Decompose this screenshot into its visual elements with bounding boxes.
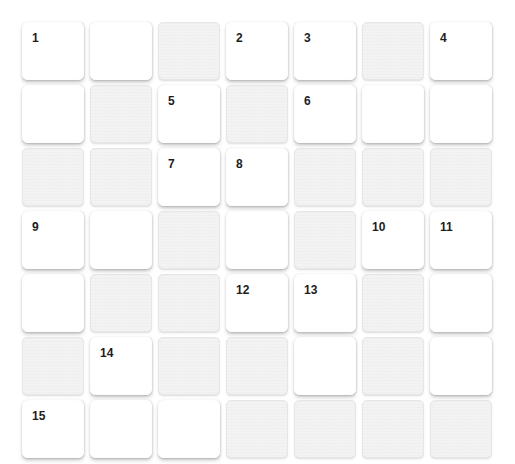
cell-letter[interactable] xyxy=(227,212,287,268)
crossword-cell-open[interactable]: 1 xyxy=(22,22,84,80)
cell-letter[interactable] xyxy=(91,401,151,457)
crossword-cell-open[interactable]: 8 xyxy=(226,148,288,206)
cell-letter[interactable] xyxy=(91,23,151,79)
crossword-cell-open[interactable] xyxy=(430,85,492,143)
cell-letter[interactable] xyxy=(91,338,151,394)
cell-letter[interactable] xyxy=(295,275,355,331)
crossword-cell-open[interactable] xyxy=(90,211,152,269)
crossword-cell-open[interactable]: 12 xyxy=(226,274,288,332)
crossword-cell-block xyxy=(90,148,152,206)
crossword-cell-open[interactable]: 7 xyxy=(158,148,220,206)
crossword-cell-open[interactable]: 15 xyxy=(22,400,84,458)
crossword-cell-block xyxy=(158,337,220,395)
cell-letter[interactable] xyxy=(23,212,83,268)
crossword-cell-open[interactable] xyxy=(226,211,288,269)
crossword-cell-block xyxy=(22,337,84,395)
crossword-cell-open[interactable] xyxy=(90,400,152,458)
crossword-grid: 123456789101112131415 xyxy=(22,22,492,458)
crossword-cell-open[interactable]: 2 xyxy=(226,22,288,80)
crossword-cell-open[interactable] xyxy=(294,337,356,395)
crossword-cell-open[interactable]: 6 xyxy=(294,85,356,143)
crossword-cell-block xyxy=(158,274,220,332)
crossword-cell-open[interactable]: 10 xyxy=(362,211,424,269)
cell-letter[interactable] xyxy=(295,338,355,394)
crossword-cell-block xyxy=(362,148,424,206)
crossword-cell-block xyxy=(362,274,424,332)
crossword-cell-open[interactable] xyxy=(430,274,492,332)
cell-letter[interactable] xyxy=(23,275,83,331)
crossword-cell-block xyxy=(430,148,492,206)
cell-letter[interactable] xyxy=(431,275,491,331)
crossword-cell-block xyxy=(226,400,288,458)
crossword-cell-block xyxy=(294,211,356,269)
crossword-cell-open[interactable] xyxy=(22,85,84,143)
crossword-cell-open[interactable]: 11 xyxy=(430,211,492,269)
crossword-cell-open[interactable]: 13 xyxy=(294,274,356,332)
crossword-cell-block xyxy=(430,400,492,458)
crossword-cell-open[interactable] xyxy=(90,22,152,80)
crossword-cell-open[interactable] xyxy=(158,400,220,458)
crossword-cell-open[interactable]: 9 xyxy=(22,211,84,269)
crossword-cell-block xyxy=(90,274,152,332)
cell-letter[interactable] xyxy=(227,23,287,79)
cell-letter[interactable] xyxy=(363,212,423,268)
crossword-cell-open[interactable]: 14 xyxy=(90,337,152,395)
crossword-cell-block xyxy=(226,337,288,395)
crossword-cell-open[interactable] xyxy=(362,85,424,143)
crossword-cell-block xyxy=(362,337,424,395)
cell-letter[interactable] xyxy=(295,23,355,79)
cell-letter[interactable] xyxy=(159,401,219,457)
cell-letter[interactable] xyxy=(91,212,151,268)
cell-letter[interactable] xyxy=(431,23,491,79)
crossword-cell-open[interactable] xyxy=(22,274,84,332)
cell-letter[interactable] xyxy=(295,86,355,142)
cell-letter[interactable] xyxy=(159,86,219,142)
crossword-cell-block xyxy=(22,148,84,206)
cell-letter[interactable] xyxy=(227,149,287,205)
cell-letter[interactable] xyxy=(159,149,219,205)
crossword-puzzle: 123456789101112131415 xyxy=(0,0,515,464)
cell-letter[interactable] xyxy=(23,86,83,142)
cell-letter[interactable] xyxy=(431,212,491,268)
crossword-cell-block xyxy=(362,400,424,458)
crossword-cell-block xyxy=(294,400,356,458)
crossword-cell-open[interactable]: 4 xyxy=(430,22,492,80)
crossword-cell-open[interactable]: 5 xyxy=(158,85,220,143)
crossword-cell-block xyxy=(158,211,220,269)
cell-letter[interactable] xyxy=(23,23,83,79)
crossword-cell-block xyxy=(362,22,424,80)
crossword-cell-open[interactable] xyxy=(430,337,492,395)
crossword-cell-block xyxy=(158,22,220,80)
cell-letter[interactable] xyxy=(363,86,423,142)
crossword-cell-block xyxy=(90,85,152,143)
crossword-cell-block xyxy=(226,85,288,143)
crossword-cell-open[interactable]: 3 xyxy=(294,22,356,80)
cell-letter[interactable] xyxy=(431,338,491,394)
cell-letter[interactable] xyxy=(23,401,83,457)
cell-letter[interactable] xyxy=(431,86,491,142)
crossword-cell-block xyxy=(294,148,356,206)
cell-letter[interactable] xyxy=(227,275,287,331)
